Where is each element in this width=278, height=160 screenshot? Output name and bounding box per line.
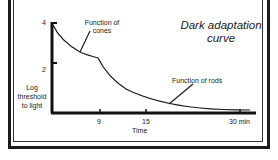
chart-title: Dark adaptation curve — [176, 19, 266, 45]
y-tick-label-4: 4 — [42, 19, 46, 27]
y-axis-label-line-1: Log — [14, 83, 50, 92]
x-tick-label-15: 15 — [142, 118, 150, 126]
y-axis-label-line-3: to light — [14, 101, 50, 110]
y-axis-label: Log threshold to light — [14, 83, 50, 110]
rods-annotation: Function of rods — [172, 77, 222, 85]
x-tick-label-30: 30 min — [229, 118, 250, 126]
y-axis-label-line-2: threshold — [14, 92, 50, 101]
cones-annotation-line-1: Function of — [82, 19, 122, 27]
chart-title-line-2: curve — [176, 32, 266, 45]
rods-pointer-line — [169, 84, 193, 104]
x-axis-label: Time — [132, 127, 147, 135]
y-tick-label-2: 2 — [42, 66, 46, 74]
x-tick-label-9: 9 — [97, 118, 101, 126]
chart-title-line-1: Dark adaptation — [176, 19, 266, 32]
cones-annotation-line-2: cones — [82, 27, 122, 35]
cones-annotation: Function of cones — [82, 19, 122, 35]
